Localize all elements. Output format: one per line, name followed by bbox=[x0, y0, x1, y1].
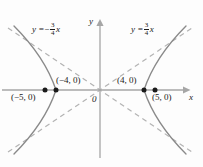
asymptote-right-numerator: 3 bbox=[144, 22, 150, 29]
point-label-left-vertex: (−4, 0) bbox=[56, 76, 81, 85]
asymptote-label-left: y =− 3 4 x bbox=[32, 22, 60, 38]
point-right-vertex bbox=[142, 88, 147, 93]
hyperbola-figure: y x 0 y =− 3 4 x y = 3 4 x (−5, 0) (−4, … bbox=[0, 0, 203, 167]
asymptote-left-denominator: 4 bbox=[50, 29, 56, 37]
point-left-vertex bbox=[54, 88, 59, 93]
point-label-right-focus: (5, 0) bbox=[152, 93, 172, 102]
y-axis-arrowhead bbox=[96, 19, 103, 26]
asymptote-right-denominator: 4 bbox=[144, 29, 150, 37]
y-axis-label: y bbox=[89, 17, 93, 26]
asymptote-left-numerator: 3 bbox=[50, 22, 56, 29]
point-label-right-vertex: (4, 0) bbox=[117, 76, 137, 85]
asymptote-left-variable: x bbox=[56, 24, 60, 34]
point-left-focus bbox=[43, 88, 48, 93]
asymptote-right-variable: x bbox=[150, 24, 154, 34]
asymptote-left-sign: − bbox=[44, 24, 49, 34]
point-label-left-focus: (−5, 0) bbox=[11, 93, 36, 102]
asymptote-right-lhs: y = bbox=[131, 24, 143, 34]
asymptote-left-lhs: y = bbox=[32, 24, 44, 34]
origin-label: 0 bbox=[92, 95, 97, 104]
asymptote-label-right: y = 3 4 x bbox=[131, 22, 154, 38]
graph-canvas bbox=[0, 0, 203, 167]
asymptote-right-fraction: 3 4 bbox=[144, 22, 150, 38]
x-axis-label: x bbox=[189, 93, 193, 102]
asymptote-left-fraction: 3 4 bbox=[50, 22, 56, 38]
